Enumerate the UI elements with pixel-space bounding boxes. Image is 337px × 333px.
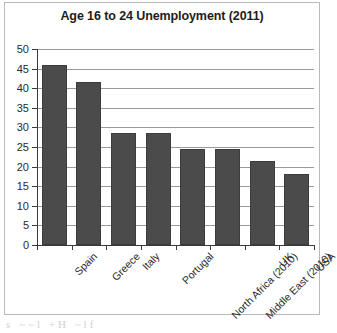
x-tick	[210, 245, 211, 250]
x-tick	[314, 245, 315, 250]
y-tick	[32, 108, 38, 109]
scan-artifact-text: s ~~l +H ~lf	[0, 318, 329, 333]
gridline	[37, 49, 314, 50]
y-tick	[32, 206, 38, 207]
chart-container: Age 16 to 24 Unemployment (2011) 0510152…	[4, 2, 320, 315]
y-axis-tick-label: 0	[23, 239, 29, 251]
bar	[250, 161, 275, 245]
x-axis-tick-label: Spain	[72, 250, 99, 277]
bar	[146, 133, 171, 245]
x-tick	[106, 245, 107, 250]
y-axis-tick-label: 10	[17, 200, 29, 212]
y-axis-tick-label: 45	[17, 63, 29, 75]
y-tick	[32, 147, 38, 148]
y-tick	[32, 127, 38, 128]
x-tick	[279, 245, 280, 250]
bar	[111, 133, 136, 245]
x-tick	[245, 245, 246, 250]
x-tick	[37, 245, 38, 250]
bar	[42, 65, 67, 245]
bar	[76, 82, 101, 245]
x-axis-tick-label: Portugal	[180, 250, 216, 286]
y-tick	[32, 186, 38, 187]
y-axis-tick-label: 15	[17, 180, 29, 192]
plot-area: 05101520253035404550 SpainGreeceItalyPor…	[37, 49, 314, 245]
y-tick	[32, 49, 38, 50]
y-axis-tick-label: 35	[17, 102, 29, 114]
y-tick	[32, 88, 38, 89]
chart-title: Age 16 to 24 Unemployment (2011)	[5, 9, 319, 23]
y-axis-tick-label: 40	[17, 82, 29, 94]
bar	[180, 149, 205, 245]
x-tick	[72, 245, 73, 250]
x-tick	[141, 245, 142, 250]
y-tick	[32, 167, 38, 168]
y-tick	[32, 225, 38, 226]
y-tick	[32, 69, 38, 70]
y-axis-tick-label: 20	[17, 161, 29, 173]
y-axis-tick-label: 30	[17, 121, 29, 133]
x-axis-tick-label: Italy	[139, 250, 161, 272]
bar	[284, 174, 309, 245]
bar	[215, 149, 240, 245]
gridline	[37, 69, 314, 70]
y-axis-tick-label: 25	[17, 141, 29, 153]
x-tick	[176, 245, 177, 250]
y-axis-tick-label: 50	[17, 43, 29, 55]
y-axis-tick-label: 5	[23, 219, 29, 231]
x-axis-tick-label: Greece	[109, 250, 142, 283]
